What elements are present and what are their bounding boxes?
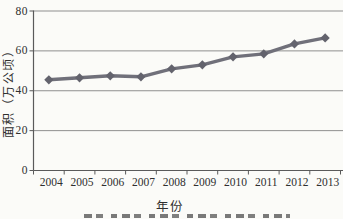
data-point-marker — [228, 52, 237, 61]
x-tick-label: 2012 — [281, 176, 313, 189]
data-point-marker — [321, 33, 330, 42]
x-tick-label: 2006 — [97, 176, 129, 189]
data-point-marker — [167, 64, 176, 73]
y-tick-label: 20 — [0, 124, 28, 137]
y-tick-label: 80 — [0, 5, 28, 18]
y-tick-label: 40 — [0, 84, 28, 97]
data-point-marker — [44, 75, 53, 84]
data-point-marker — [290, 39, 299, 48]
y-tick-label: 60 — [0, 44, 28, 57]
x-tick-label: 2010 — [220, 176, 252, 189]
x-axis-title: 年份 — [156, 196, 184, 215]
x-tick-label: 2013 — [312, 176, 343, 189]
data-point-marker — [136, 72, 145, 81]
chart-figure: 面积（万公顷） 年份 02040608020042005200620072008… — [0, 0, 343, 219]
x-tick-label: 2011 — [250, 176, 282, 189]
data-point-marker — [198, 60, 207, 69]
data-point-marker — [106, 71, 115, 80]
y-tick-label: 0 — [0, 164, 28, 177]
x-tick-label: 2008 — [158, 176, 190, 189]
x-tick-label: 2005 — [66, 176, 98, 189]
data-point-marker — [75, 73, 84, 82]
x-tick-label: 2004 — [35, 176, 67, 189]
cropped-caption-fragment — [84, 214, 290, 218]
data-line — [49, 38, 325, 80]
x-tick-label: 2007 — [127, 176, 159, 189]
x-tick-label: 2009 — [189, 176, 221, 189]
